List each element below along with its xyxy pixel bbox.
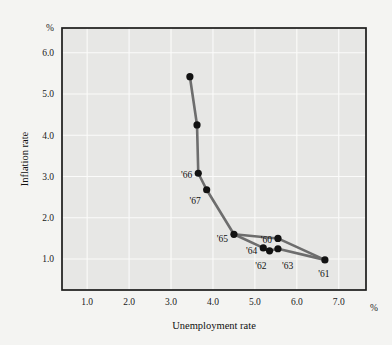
y-tick-label: 3.0 [42,172,54,182]
x-tick-label: 7.0 [333,297,345,307]
x-tick-label: 2.0 [123,297,135,307]
point-label-60: '60 [261,235,272,245]
y-tick-label: 4.0 [42,131,54,141]
plot-area-background [62,28,366,290]
point-label-65: '65 [217,234,228,244]
y-tick-label: 6.0 [42,48,54,58]
data-point-60 [274,235,281,242]
x-tick-label: 5.0 [249,297,261,307]
x-tick-label: 6.0 [291,297,303,307]
point-label-64: '64 [246,246,257,256]
x-tick-label: 3.0 [165,297,177,307]
data-point [186,73,193,80]
y-tick-label: 5.0 [42,89,54,99]
point-label-61: '61 [318,269,329,279]
point-label-66: '66 [181,170,192,180]
y-tick-label: 1.0 [42,254,54,264]
x-tick-label: 1.0 [81,297,93,307]
data-point-65 [230,231,237,238]
data-point-64 [260,244,267,251]
point-label-63: '63 [282,261,293,271]
x-axis-unit-label: % [370,303,378,313]
data-point-63 [274,245,281,252]
data-point [193,121,200,128]
y-tick-label: 2.0 [42,213,54,223]
x-axis-title: Unemployment rate [172,320,256,331]
y-axis-title: Inflation rate [19,131,30,186]
data-point-62 [266,247,273,254]
point-label-62: '62 [255,261,266,271]
data-point-61 [321,256,328,263]
y-axis-unit-label: % [46,23,54,33]
chart-canvas: '66'67'65'64'62'63'60'61 1.02.03.04.05.0… [0,0,392,345]
phillips-curve-figure: '66'67'65'64'62'63'60'61 1.02.03.04.05.0… [0,0,392,345]
data-point-67 [203,186,210,193]
x-tick-label: 4.0 [207,297,219,307]
data-point-66 [195,170,202,177]
point-label-67: '67 [189,196,200,206]
